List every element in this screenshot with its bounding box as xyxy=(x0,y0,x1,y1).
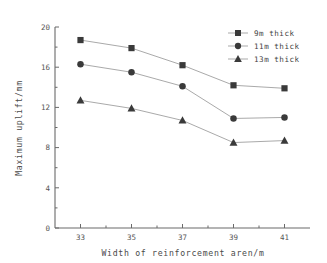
y-tick-label: 12 xyxy=(41,103,50,112)
series-13m-thick xyxy=(77,96,289,146)
line-chart-svg: 048121620 3335373941 9m thick11m thick13… xyxy=(0,0,327,263)
legend-marker xyxy=(235,30,241,36)
legend-marker xyxy=(234,55,242,62)
x-tick-label: 41 xyxy=(280,233,289,242)
y-tick-label: 0 xyxy=(45,224,50,233)
data-point-marker xyxy=(179,62,185,68)
y-tick-label: 8 xyxy=(45,143,50,152)
y-tick-label: 20 xyxy=(41,23,51,32)
data-point-marker xyxy=(77,37,83,43)
data-point-marker xyxy=(230,82,236,88)
x-tick-label: 39 xyxy=(229,233,238,242)
data-point-marker xyxy=(128,45,134,51)
data-point-marker xyxy=(281,114,288,121)
y-tick-label: 16 xyxy=(41,63,51,72)
data-point-marker xyxy=(281,85,287,91)
x-axis-title: Width of reinforcement aren/m xyxy=(101,248,264,258)
data-point-marker xyxy=(281,136,289,143)
x-axis-ticks: 3335373941 xyxy=(76,224,289,242)
y-axis-ticks: 048121620 xyxy=(41,23,59,233)
x-tick-label: 35 xyxy=(127,233,136,242)
chart-series-group xyxy=(77,37,289,146)
legend-label: 9m thick xyxy=(254,29,295,38)
chart-figure: 048121620 3335373941 9m thick11m thick13… xyxy=(0,0,327,263)
series-11m-thick xyxy=(77,61,288,122)
data-point-marker xyxy=(230,115,237,122)
x-tick-label: 37 xyxy=(178,233,187,242)
y-axis-title: Maximum uplift/mm xyxy=(14,80,24,176)
data-point-marker xyxy=(179,83,186,90)
x-tick-label: 33 xyxy=(76,233,85,242)
legend-marker xyxy=(235,43,241,49)
series-line xyxy=(81,64,285,118)
data-point-marker xyxy=(77,61,84,68)
data-point-marker xyxy=(128,69,135,76)
legend-label: 11m thick xyxy=(254,42,300,51)
y-tick-label: 4 xyxy=(45,184,50,193)
legend-label: 13m thick xyxy=(254,55,300,64)
data-point-marker xyxy=(77,96,85,103)
chart-legend: 9m thick11m thick13m thick xyxy=(228,29,300,64)
